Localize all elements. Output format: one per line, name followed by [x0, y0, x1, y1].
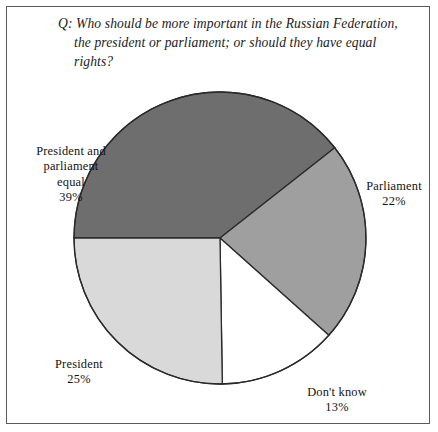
pie-label-parliament-name: Parliament [366, 179, 422, 193]
pie-label-president-name: President [55, 357, 103, 371]
figure-panel: Q: Who should be more important in the R… [0, 0, 438, 432]
pie-label-dontknow-name: Don't know [307, 385, 367, 399]
pie-label-dontknow-value: 13% [282, 400, 392, 416]
pie-label-president-value: 25% [26, 372, 132, 388]
pie-label-equal-value: 39% [16, 190, 126, 206]
pie-label-parliament-value: 22% [352, 194, 436, 210]
pie-label-president-and-parliament-equal: President and parliament equal 39% [16, 128, 126, 221]
pie-label-parliament: Parliament 22% [352, 163, 436, 225]
pie-label-dont-know: Don't know 13% [282, 369, 392, 431]
pie-label-president: President 25% [26, 341, 132, 403]
pie-label-equal-name: President and parliament equal [36, 144, 106, 189]
